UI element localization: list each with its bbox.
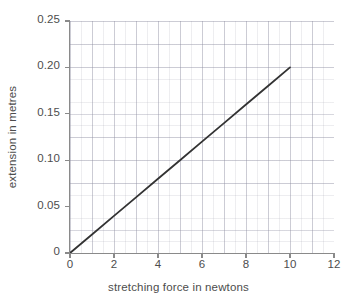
x-tick-label: 8 [226, 258, 266, 270]
y-tick-mark [65, 206, 70, 207]
data-series-line [70, 21, 334, 253]
y-tick-mark [65, 113, 70, 114]
x-tick-label: 2 [94, 258, 134, 270]
x-tick-label: 4 [138, 258, 178, 270]
y-axis-spine [69, 20, 70, 254]
x-tick-label: 6 [182, 258, 222, 270]
y-tick-mark [65, 20, 70, 21]
y-axis-label: extension in metres [4, 21, 20, 253]
x-axis-label: stretching force in newtons [0, 281, 357, 293]
x-tick-label: 10 [270, 258, 310, 270]
plot-area [70, 21, 334, 253]
y-tick-mark [65, 67, 70, 68]
y-tick-mark [65, 160, 70, 161]
x-tick-label: 12 [314, 258, 354, 270]
y-tick-mark [65, 252, 70, 253]
chart-figure: 00.050.100.150.200.25 024681012 stretchi… [0, 0, 357, 304]
x-tick-label: 0 [50, 258, 90, 270]
